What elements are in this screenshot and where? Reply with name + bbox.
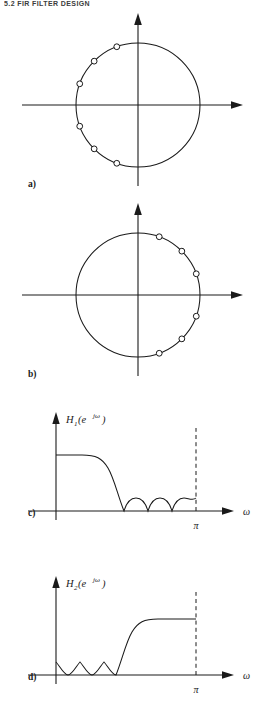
figure-panel-b: b): [0, 198, 272, 380]
d-title-arg-close: ): [101, 578, 106, 590]
figure-panel-d: H 2 (e jω ) π ω d): [0, 562, 272, 712]
c-omega-axis-label: ω: [243, 506, 250, 517]
d-vertical-axis: [52, 576, 59, 684]
panel-d-plot: H 2 (e jω ) π ω: [0, 562, 272, 712]
panel-c-plot: H 1 (e jω ) π ω: [0, 398, 272, 548]
d-vertical-axis-arrowhead: [52, 576, 59, 588]
zero-marker: [114, 160, 120, 166]
panel-a-plot: [0, 8, 272, 190]
d-omega-axis-arrowhead: [222, 671, 234, 679]
real-axis-arrowhead: [231, 101, 243, 109]
zero-marker: [77, 123, 83, 129]
zero-marker: [193, 271, 199, 277]
panel-c-label: c): [28, 509, 35, 519]
c-title-exponent: jω: [92, 412, 100, 420]
real-axis: [22, 101, 243, 109]
imaginary-axis: [134, 13, 142, 186]
zero-marker: [114, 44, 120, 50]
c-pi-tick-label: π: [193, 520, 199, 531]
figure-panel-a: a): [0, 8, 272, 190]
c-title-label: H 1 (e jω ): [65, 412, 106, 428]
panel-d-label: d): [28, 673, 36, 683]
real-axis: [22, 291, 243, 299]
zero-marker: [156, 350, 162, 356]
d-title-arg-open: (e: [78, 578, 86, 590]
c-vertical-axis: [52, 412, 59, 520]
page-running-header: 5.2 FIR FILTER DESIGN: [4, 0, 154, 7]
imaginary-axis-arrowhead: [134, 13, 142, 25]
imaginary-axis: [134, 203, 142, 376]
d-pi-tick-label: π: [193, 684, 199, 695]
d-response-curve: [56, 619, 196, 675]
c-vertical-axis-arrowhead: [52, 412, 59, 424]
zero-marker: [156, 234, 162, 240]
d-omega-axis: [28, 671, 234, 679]
d-title-label: H 2 (e jω ): [65, 576, 106, 592]
panel-b-label: b): [28, 370, 36, 380]
zero-marker: [91, 146, 97, 152]
panel-a-label: a): [28, 180, 36, 190]
c-omega-axis: [28, 507, 234, 515]
imaginary-axis-arrowhead: [134, 203, 142, 215]
c-title-arg-open: (e: [78, 414, 86, 426]
zero-marker: [193, 313, 199, 319]
c-omega-axis-arrowhead: [222, 507, 234, 515]
d-title-exponent: jω: [92, 576, 100, 584]
c-title-arg-close: ): [101, 414, 106, 426]
zero-marker: [179, 336, 185, 342]
zero-marker: [91, 58, 97, 64]
real-axis-arrowhead: [231, 291, 243, 299]
c-response-curve: [56, 455, 196, 511]
zero-marker: [179, 248, 185, 254]
d-omega-axis-label: ω: [243, 670, 250, 681]
zero-marker: [77, 81, 83, 87]
panel-b-plot: [0, 198, 272, 380]
c-title-subscript: 1: [74, 420, 78, 428]
figure-panel-c: H 1 (e jω ) π ω c): [0, 398, 272, 548]
